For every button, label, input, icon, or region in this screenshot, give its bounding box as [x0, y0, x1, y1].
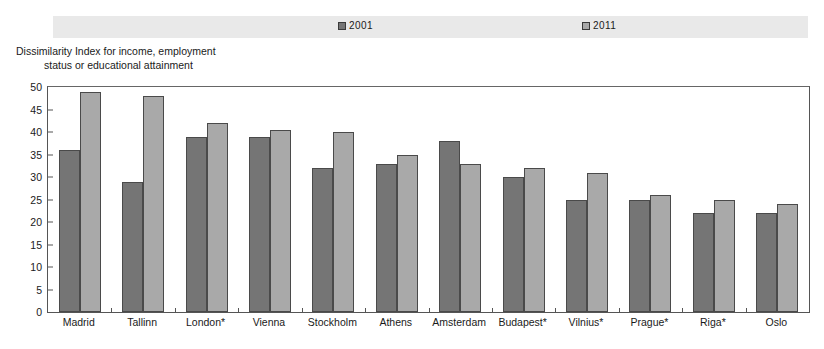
- y-axis-tick-mark: [48, 154, 53, 155]
- bar-2011: [143, 96, 164, 312]
- bar-group: [439, 87, 481, 312]
- y-axis-tick-mark: [48, 132, 53, 133]
- bar-2001: [439, 141, 460, 312]
- chart-legend: 2001 2011: [53, 16, 808, 38]
- bar-group: [756, 87, 798, 312]
- bar-2011: [333, 132, 354, 312]
- bar-2001: [503, 177, 524, 312]
- y-axis-tick-label: 50: [30, 81, 42, 93]
- y-axis-tick-label: 10: [30, 261, 42, 273]
- bar-group: [566, 87, 608, 312]
- bar-group: [693, 87, 735, 312]
- x-axis-tick-label: Amsterdam: [432, 316, 486, 329]
- x-axis-tick-label: Riga*: [700, 316, 726, 329]
- bar-group: [503, 87, 545, 312]
- legend-label-2011: 2011: [593, 20, 616, 32]
- y-axis-title: Dissimilarity Index for income, employme…: [16, 44, 216, 72]
- bar-2001: [756, 213, 777, 312]
- y-axis-title-line2: status or educational attainment: [16, 58, 216, 72]
- bar-group: [249, 87, 291, 312]
- bar-group: [629, 87, 671, 312]
- legend-item-2011: 2011: [582, 20, 616, 32]
- y-axis-tick-mark: [48, 222, 53, 223]
- y-axis-tick-mark: [48, 109, 53, 110]
- x-axis-tick-mark: [175, 308, 176, 312]
- y-axis-tick-label: 0: [36, 306, 42, 318]
- x-axis-tick-mark: [619, 308, 620, 312]
- chart-figure: 2001 2011 Dissimilarity Index for income…: [0, 0, 824, 349]
- x-axis-tick-label: Tallinn: [127, 316, 157, 329]
- plot-area: 05101520253035404550: [47, 86, 810, 313]
- x-axis-tick-label: London*: [186, 316, 225, 329]
- bar-2011: [207, 123, 228, 312]
- legend-label-2001: 2001: [349, 20, 373, 32]
- bar-2011: [397, 155, 418, 313]
- bar-2001: [566, 200, 587, 313]
- bar-2011: [524, 168, 545, 312]
- y-axis-tick-label: 25: [30, 194, 42, 206]
- legend-swatch-2011: [582, 22, 590, 30]
- x-axis-tick-label: Madrid: [63, 316, 95, 329]
- y-axis-tick-label: 5: [36, 284, 42, 296]
- bar-2001: [693, 213, 714, 312]
- x-axis-tick-label: Budapest*: [498, 316, 546, 329]
- bar-2001: [629, 200, 650, 313]
- legend-swatch-2001: [338, 22, 346, 30]
- cropped-caption: [0, 0, 824, 12]
- bar-2011: [270, 130, 291, 312]
- bar-2001: [122, 182, 143, 313]
- bar-2001: [249, 137, 270, 313]
- x-axis-tick-label: Vilnius*: [569, 316, 604, 329]
- x-axis-tick-mark: [429, 308, 430, 312]
- x-axis-tick-label: Prague*: [630, 316, 668, 329]
- y-axis-tick-mark: [48, 267, 53, 268]
- bar-group: [312, 87, 354, 312]
- y-axis-tick-label: 15: [30, 239, 42, 251]
- bar-group: [186, 87, 228, 312]
- y-axis-tick-label: 20: [30, 216, 42, 228]
- bar-group: [122, 87, 164, 312]
- bar-2011: [777, 204, 798, 312]
- bar-group: [59, 87, 101, 312]
- y-axis-tick-mark: [48, 177, 53, 178]
- bar-2011: [587, 173, 608, 313]
- bar-2001: [312, 168, 333, 312]
- x-axis-tick-mark: [111, 308, 112, 312]
- y-axis-tick-label: 35: [30, 149, 42, 161]
- bar-2001: [59, 150, 80, 312]
- bar-2011: [460, 164, 481, 313]
- bar-group: [376, 87, 418, 312]
- bar-2001: [376, 164, 397, 313]
- x-axis-tick-mark: [365, 308, 366, 312]
- x-axis-tick-label: Stockholm: [308, 316, 357, 329]
- y-axis-tick-label: 40: [30, 126, 42, 138]
- y-axis-tick-mark: [48, 289, 53, 290]
- bar-2011: [80, 92, 101, 313]
- x-axis-tick-label: Athens: [379, 316, 412, 329]
- legend-item-2001: 2001: [338, 20, 373, 32]
- y-axis-tick-label: 45: [30, 104, 42, 116]
- y-axis-tick-label: 30: [30, 171, 42, 183]
- x-axis-tick-mark: [746, 308, 747, 312]
- x-axis-tick-label: Oslo: [765, 316, 787, 329]
- bar-2001: [186, 137, 207, 313]
- x-axis-tick-mark: [302, 308, 303, 312]
- bar-2011: [650, 195, 671, 312]
- bar-2011: [714, 200, 735, 313]
- x-axis-tick-mark: [555, 308, 556, 312]
- x-axis-tick-label: Vienna: [253, 316, 286, 329]
- x-axis-tick-mark: [492, 308, 493, 312]
- y-axis-tick-mark: [48, 244, 53, 245]
- x-axis-tick-mark: [682, 308, 683, 312]
- x-axis-tick-mark: [238, 308, 239, 312]
- y-axis-title-line1: Dissimilarity Index for income, employme…: [16, 45, 216, 57]
- y-axis-tick-mark: [48, 199, 53, 200]
